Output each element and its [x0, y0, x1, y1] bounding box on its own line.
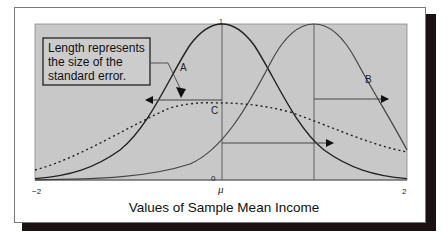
annotation-line-1: Length represents — [48, 41, 145, 55]
mu-label: μ — [217, 183, 224, 195]
curve-label-a: A — [180, 62, 187, 73]
x-max-label: 2 — [402, 187, 407, 196]
annotation-line-2: the size of the — [48, 55, 123, 69]
x-min-label: −2 — [32, 187, 42, 196]
origin-label: 0 — [211, 174, 216, 183]
top-tick-label: 1 — [219, 18, 223, 25]
x-axis-title: Values of Sample Mean Income — [0, 200, 448, 215]
curve-label-b: B — [365, 74, 372, 85]
curve-label-c: C — [211, 105, 218, 116]
annotation-line-3: standard error. — [48, 69, 126, 83]
